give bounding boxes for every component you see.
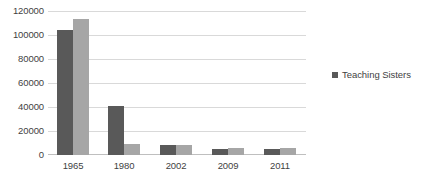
y-tick-label: 60000 (0, 78, 44, 88)
x-tick-label-2009: 2009 (203, 160, 253, 172)
bar-teaching-sisters-1965[interactable] (57, 30, 73, 155)
bar-series2-1980[interactable] (124, 144, 140, 155)
bar-teaching-sisters-2009[interactable] (212, 149, 228, 155)
bar-group-2009 (203, 11, 253, 155)
bars-layer (48, 11, 306, 155)
bar-series2-1965[interactable] (73, 19, 89, 155)
bar-group-2011 (255, 11, 305, 155)
bar-group-1980 (99, 11, 149, 155)
bar-series2-2002[interactable] (176, 145, 192, 155)
bar-teaching-sisters-1980[interactable] (108, 106, 124, 155)
x-tick-label-1965: 1965 (48, 160, 98, 172)
y-tick-label: 100000 (0, 30, 44, 40)
legend-label-teaching-sisters: Teaching Sisters (342, 69, 411, 80)
legend-square-marker-icon (332, 72, 338, 78)
bar-group-2002 (151, 11, 201, 155)
legend: Teaching Sisters (332, 69, 411, 80)
bar-series2-2011[interactable] (280, 148, 296, 155)
bar-series2-2009[interactable] (228, 148, 244, 155)
y-tick-label: 120000 (0, 6, 44, 16)
y-tick-label: 40000 (0, 102, 44, 112)
x-axis: 1965 1980 2002 2009 2011 (48, 160, 306, 178)
y-tick-label: 80000 (0, 54, 44, 64)
y-tick-label: 0 (0, 150, 44, 160)
chart-screenshot: 120000 100000 80000 60000 40000 20000 0 (0, 0, 423, 184)
bar-group-1965 (48, 11, 98, 155)
x-tick-label-2011: 2011 (255, 160, 305, 172)
bar-teaching-sisters-2002[interactable] (160, 145, 176, 155)
bar-teaching-sisters-2011[interactable] (264, 149, 280, 155)
y-tick-label: 20000 (0, 126, 44, 136)
x-tick-label-2002: 2002 (151, 160, 201, 172)
x-tick-label-1980: 1980 (99, 160, 149, 172)
y-axis: 120000 100000 80000 60000 40000 20000 0 (0, 0, 44, 184)
